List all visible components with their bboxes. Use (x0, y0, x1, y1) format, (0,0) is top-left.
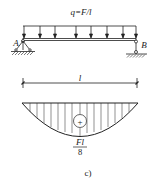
load-label: q=F/l (70, 7, 92, 17)
max-moment-denominator: 8 (78, 147, 82, 157)
support-b-label: B (141, 40, 147, 50)
moment-sign: + (77, 117, 82, 127)
support-a-label: A (12, 38, 19, 48)
ground-hatch-b (127, 55, 145, 58)
ground-hatch-a (12, 52, 33, 55)
max-moment-numerator: Fl (75, 137, 84, 147)
distributed-load (23, 26, 138, 38)
beam-diagram: q=F/l A (0, 0, 156, 187)
figure-caption: c) (85, 168, 92, 178)
load-arrows (23, 26, 138, 38)
span-label: l (79, 73, 82, 83)
beam (23, 39, 136, 41)
